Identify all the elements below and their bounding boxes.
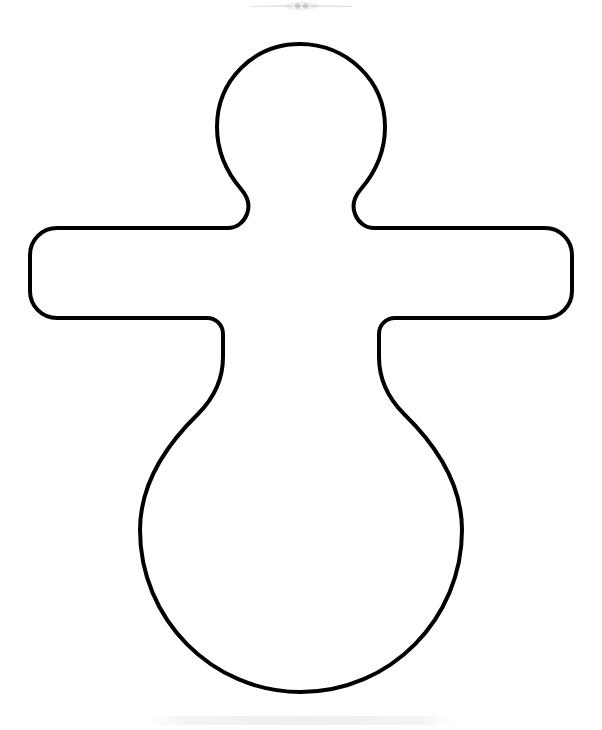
doll-outline-path xyxy=(30,44,572,692)
coloring-page-canvas xyxy=(0,0,602,730)
doll-figure xyxy=(30,44,572,692)
doll-outline-artwork xyxy=(0,0,602,730)
